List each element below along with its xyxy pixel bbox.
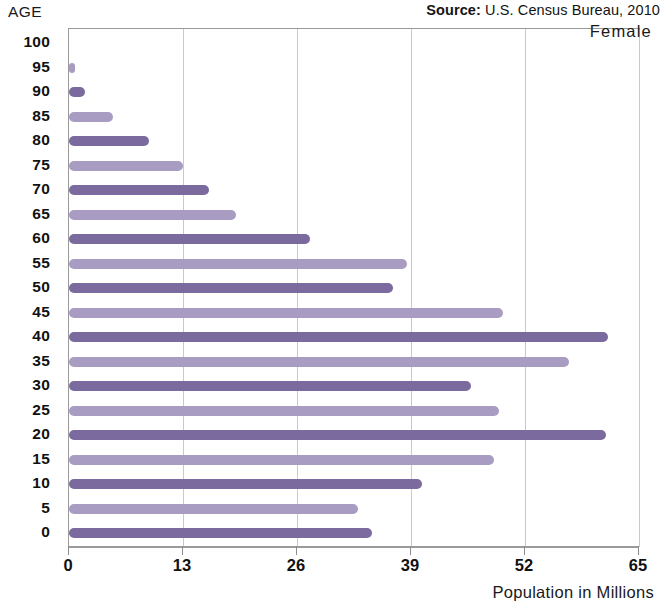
gridline-x-39: [411, 29, 412, 547]
y-axis-label-20: 20: [32, 425, 50, 443]
plot-area: [68, 28, 640, 547]
y-axis-label-30: 30: [32, 376, 50, 394]
y-axis-label-60: 60: [32, 229, 50, 247]
bar-age-65: [69, 210, 236, 220]
bar-age-70: [69, 185, 209, 195]
x-axis-label-65: 65: [629, 556, 647, 575]
y-axis-label-85: 85: [32, 107, 50, 125]
x-axis-label-39: 39: [401, 556, 419, 575]
y-axis-label-100: 100: [24, 33, 50, 51]
series-legend-female: Female: [590, 22, 652, 41]
bar-age-25: [69, 406, 499, 416]
x-axis-label-13: 13: [173, 556, 191, 575]
bar-age-10: [69, 479, 422, 489]
y-axis-label-95: 95: [32, 58, 50, 76]
y-axis-label-70: 70: [32, 180, 50, 198]
bar-age-30: [69, 381, 471, 391]
y-axis-label-15: 15: [32, 450, 50, 468]
y-axis-label-45: 45: [32, 303, 50, 321]
x-tick-26: [296, 546, 297, 555]
bar-age-20: [69, 430, 606, 440]
bar-age-40: [69, 332, 608, 342]
y-axis-tick-labels: 1009590858075706560555045403530252015105…: [0, 28, 62, 546]
bar-age-15: [69, 455, 494, 465]
population-pyramid-figure: Source: U.S. Census Bureau, 2010 AGE Fem…: [0, 0, 666, 608]
y-axis-label-75: 75: [32, 156, 50, 174]
x-axis-label-52: 52: [515, 556, 533, 575]
source-label: Source:: [426, 2, 481, 18]
y-axis-label-90: 90: [32, 82, 50, 100]
y-axis-label-0: 0: [41, 523, 50, 541]
bar-age-95: [69, 63, 75, 73]
bar-age-75: [69, 161, 183, 171]
bar-age-55: [69, 259, 407, 269]
x-tick-52: [524, 546, 525, 555]
x-tick-39: [410, 546, 411, 555]
bar-age-5: [69, 504, 358, 514]
bar-age-85: [69, 112, 113, 122]
gridline-x-65: [639, 29, 640, 547]
bar-age-60: [69, 234, 310, 244]
bar-age-0: [69, 528, 372, 538]
y-axis-label-25: 25: [32, 401, 50, 419]
y-axis-label-50: 50: [32, 278, 50, 296]
x-tick-13: [182, 546, 183, 555]
y-axis-label-35: 35: [32, 352, 50, 370]
x-tick-0: [68, 546, 69, 555]
x-axis-title: Population in Millions: [492, 583, 654, 602]
y-axis-label-10: 10: [32, 474, 50, 492]
y-axis-label-80: 80: [32, 131, 50, 149]
source-text: U.S. Census Bureau, 2010: [481, 2, 660, 18]
bar-age-50: [69, 283, 393, 293]
x-axis-label-0: 0: [63, 556, 72, 575]
y-axis-label-40: 40: [32, 327, 50, 345]
bar-age-35: [69, 357, 569, 367]
y-axis-title: AGE: [8, 3, 42, 21]
bar-age-90: [69, 87, 85, 97]
x-axis-line: [68, 546, 639, 548]
source-note: Source: U.S. Census Bureau, 2010: [426, 2, 660, 18]
gridline-x-52: [525, 29, 526, 547]
bar-age-45: [69, 308, 503, 318]
y-axis-label-55: 55: [32, 254, 50, 272]
x-tick-65: [638, 546, 639, 555]
y-axis-label-65: 65: [32, 205, 50, 223]
bar-age-80: [69, 136, 149, 146]
y-axis-label-5: 5: [41, 499, 50, 517]
x-axis-label-26: 26: [287, 556, 305, 575]
